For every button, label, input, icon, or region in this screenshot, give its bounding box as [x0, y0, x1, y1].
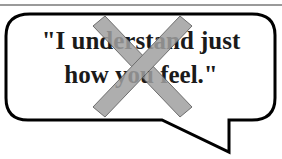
x-cross-icon: [0, 0, 282, 159]
